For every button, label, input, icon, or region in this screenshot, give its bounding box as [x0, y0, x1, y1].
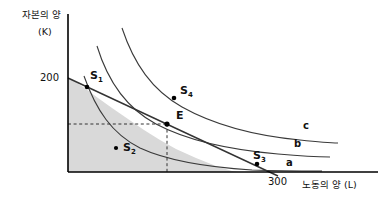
shaded-feasible-region	[68, 78, 238, 172]
point-marker-e	[164, 121, 169, 126]
point-label-s2-subscript: 2	[131, 148, 136, 156]
point-marker-s1	[85, 85, 90, 90]
curve-label-c: c	[303, 121, 309, 131]
point-label-s2-text: S	[123, 141, 131, 154]
point-marker-s2	[114, 146, 118, 150]
curve-label-a: a	[286, 158, 293, 168]
point-label-s3-text: S	[253, 149, 261, 162]
point-label-s2: S2	[123, 142, 136, 156]
point-label-s1-text: S	[90, 69, 98, 82]
point-label-s4: S4	[180, 85, 193, 99]
y-tick-label-200: 200	[40, 73, 59, 83]
economics-isoquant-chart	[0, 0, 390, 202]
y-axis-title-line2: (K)	[38, 27, 52, 37]
curve-label-b: b	[294, 139, 301, 149]
y-axis-title-line1: 자본의 양	[22, 10, 61, 20]
point-label-s3: S3	[253, 150, 266, 164]
x-axis-title: 노동의 양 (L)	[302, 180, 357, 190]
point-label-e: E	[176, 110, 184, 121]
point-label-s1: S1	[90, 70, 103, 84]
x-tick-label-300: 300	[268, 177, 287, 187]
point-label-s4-subscript: 4	[188, 91, 193, 99]
figure-canvas: 자본의 양 (K) 노동의 양 (L) 200 300 S1 S2 S3 S4 …	[0, 0, 390, 202]
point-marker-s4	[172, 96, 177, 101]
point-label-s1-subscript: 1	[98, 76, 103, 84]
point-label-s4-text: S	[180, 84, 188, 97]
point-label-s3-subscript: 3	[261, 156, 266, 164]
